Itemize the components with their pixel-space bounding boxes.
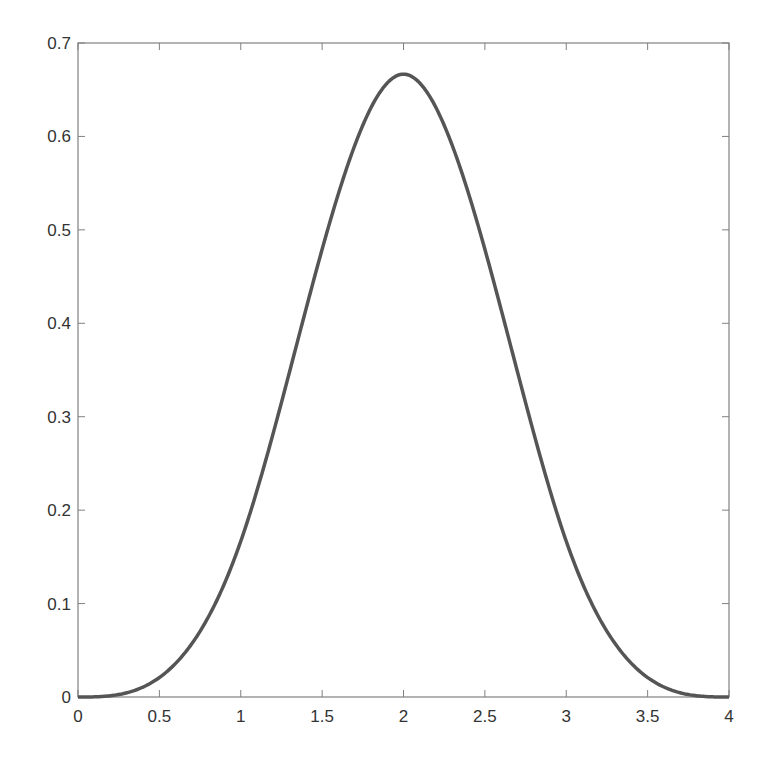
x-tick-label: 0.5 [148,707,172,726]
x-tick-label: 4 [724,707,733,726]
y-tick-label: 0.1 [47,595,71,614]
x-tick-label: 1.5 [310,707,334,726]
y-tick-label: 0.6 [47,127,71,146]
y-tick-label: 0.5 [47,221,71,240]
x-tick-label: 0 [73,707,82,726]
x-tick-label: 3 [562,707,571,726]
y-tick-label: 0.2 [47,501,71,520]
y-axis-tick-labels: 00.10.20.30.40.50.60.7 [47,34,71,707]
axis-ticks [78,43,729,697]
x-tick-label: 3.5 [636,707,660,726]
y-tick-label: 0.3 [47,408,71,427]
data-line [78,74,729,697]
x-axis-tick-labels: 00.511.522.533.54 [73,707,733,726]
x-tick-label: 2.5 [473,707,497,726]
x-tick-label: 2 [399,707,408,726]
y-tick-label: 0.4 [47,314,71,333]
line-chart: 00.511.522.533.54 00.10.20.30.40.50.60.7 [0,0,769,761]
y-tick-label: 0 [62,688,71,707]
plot-area-frame [78,43,729,697]
y-tick-label: 0.7 [47,34,71,53]
x-tick-label: 1 [236,707,245,726]
